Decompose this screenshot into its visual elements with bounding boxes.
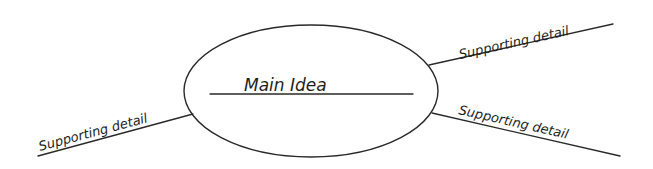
upper-right-detail-label: Supporting detail <box>457 23 570 62</box>
main-idea-label: Main Idea <box>244 75 327 95</box>
lower-left-detail-label: Supporting detail <box>37 110 150 154</box>
main-idea-diagram: Main Idea Supporting detail Supporting d… <box>0 0 653 169</box>
